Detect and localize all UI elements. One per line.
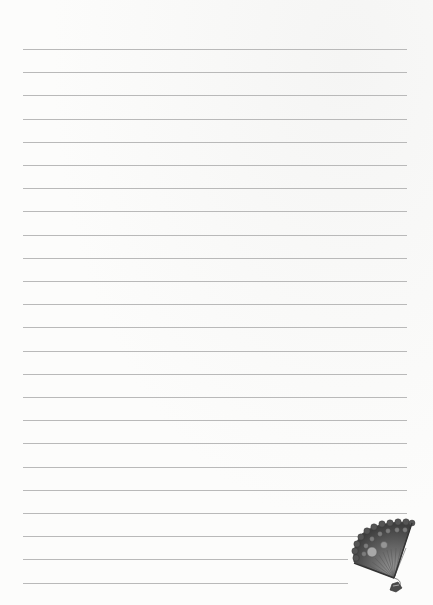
lined-paper-page [0,0,433,605]
ruled-line [23,443,407,444]
ruled-line [23,513,407,514]
ruled-line [23,420,407,421]
folding-fan-icon [350,518,416,594]
ruled-line [23,142,407,143]
ruled-line [23,397,407,398]
ruled-line [23,467,407,468]
ruled-line [23,559,348,560]
ruled-line [23,49,407,50]
ruled-line [23,281,407,282]
ruled-line [23,95,407,96]
ruled-line [23,211,407,212]
ruled-line [23,235,407,236]
ruled-line [23,188,407,189]
ruled-line [23,72,407,73]
ruled-line [23,490,407,491]
ruled-line [23,583,348,584]
ruled-line [23,351,407,352]
ruled-line [23,304,407,305]
ruled-line [23,536,360,537]
ruled-line [23,327,407,328]
ruled-line [23,374,407,375]
ruled-line [23,165,407,166]
ruled-line [23,119,407,120]
ruled-line [23,258,407,259]
